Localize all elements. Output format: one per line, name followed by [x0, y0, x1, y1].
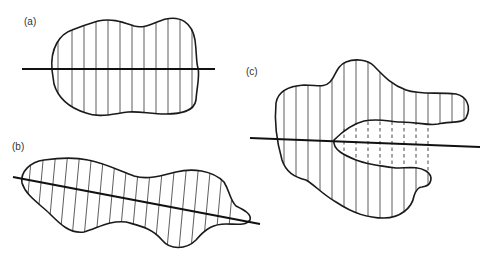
panel-c-axis	[250, 138, 480, 147]
panel-b-axis	[13, 177, 260, 224]
panel-c-outline	[275, 60, 468, 218]
diagram-canvas	[0, 0, 498, 264]
panel-a	[22, 10, 215, 125]
panel-b-hatching	[22, 150, 236, 260]
panel-b	[13, 150, 260, 260]
panel-c	[250, 50, 480, 230]
panel-b-label: (b)	[12, 141, 24, 152]
panel-c-label: (c)	[246, 66, 258, 77]
panel-a-label: (a)	[24, 16, 36, 27]
panel-b-outline	[22, 158, 251, 247]
panel-a-outline	[52, 18, 199, 115]
